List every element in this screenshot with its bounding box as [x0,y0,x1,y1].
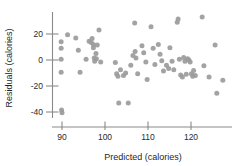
data-point [116,100,121,105]
scatter-plot-canvas: 200-20-4090100110120Predicted (calories)… [0,0,238,166]
data-point [94,56,99,61]
data-point [177,57,182,62]
data-point [151,46,156,51]
data-point [200,15,205,20]
data-point [115,74,120,79]
data-point [98,59,103,64]
data-point [184,72,189,77]
data-points-layer [59,15,226,116]
data-point [93,51,98,56]
data-point [156,42,161,47]
data-point [193,73,198,78]
y-axis-title: Residuals (calories) [4,28,14,107]
data-point [59,46,64,51]
data-point [133,56,138,61]
data-point [132,20,137,25]
data-point [60,110,65,115]
data-point [59,39,64,44]
data-point [161,69,166,74]
data-point [123,71,128,76]
data-point [65,32,70,37]
data-point [73,35,78,40]
data-point [135,71,140,76]
y-axis-tick-label: 0 [38,55,43,65]
data-point [90,36,95,41]
data-point [141,50,146,55]
data-point [167,45,172,50]
data-point [133,49,138,54]
data-point [59,57,64,62]
data-point [166,66,171,71]
data-point [145,77,150,82]
data-point [126,100,131,105]
data-point [191,68,196,73]
data-point [149,24,154,29]
x-axis-tick-label: 100 [98,132,112,142]
data-point [214,91,219,96]
data-point [96,28,101,33]
data-point [201,63,206,68]
data-point [113,60,118,65]
data-point [78,70,83,75]
axes-layer [46,12,232,130]
data-point [170,59,175,64]
data-point [128,63,133,68]
data-point [152,62,157,67]
data-point [220,78,225,83]
data-point [118,67,123,72]
data-point [76,48,81,53]
data-point [176,17,181,22]
data-point [188,59,193,64]
data-point [59,70,64,75]
y-axis-tick-label: -20 [31,81,44,91]
data-point [207,74,212,79]
data-point [171,67,176,72]
y-axis-tick-label: -40 [31,107,44,117]
data-point [95,43,100,48]
data-point [139,43,144,48]
y-axis-tick-label: 20 [34,29,44,39]
residual-scatter-plot: 200-20-4090100110120Predicted (calories)… [0,0,238,166]
data-point [213,43,218,48]
x-axis-tick-label: 120 [184,132,198,142]
data-point [84,57,89,62]
x-axis-tick-label: 90 [57,132,67,142]
data-point [158,52,163,57]
x-axis-title: Predicted (calories) [104,152,182,162]
data-point [159,58,164,63]
data-point [143,59,148,64]
x-axis-tick-label: 110 [141,132,155,142]
